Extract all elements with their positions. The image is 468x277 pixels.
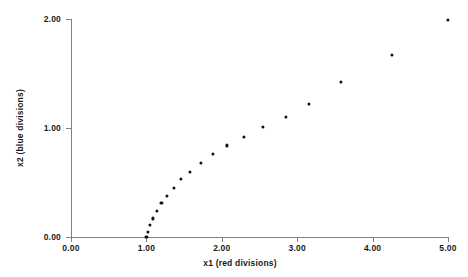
plot-area — [71, 19, 448, 237]
x-axis-line — [71, 237, 449, 238]
x-tick-label: 1.00 — [138, 243, 155, 253]
x-axis-title: x1 (red divisions) — [203, 258, 277, 268]
y-tick-mark — [66, 237, 71, 238]
x-tick-mark — [448, 237, 449, 242]
y-tick-label: 1.00 — [44, 123, 61, 133]
x-tick-label: 0.00 — [62, 243, 79, 253]
scatter-plot-figure: 0.001.002.003.004.005.00 0.001.002.00 x1… — [0, 0, 468, 277]
x-tick-label: 5.00 — [439, 243, 456, 253]
x-tick-mark — [373, 237, 374, 242]
data-point — [446, 18, 449, 21]
x-tick-mark — [222, 237, 223, 242]
data-point — [145, 235, 148, 238]
y-axis-title: x2 (blue divisions) — [15, 89, 25, 167]
x-tick-label: 2.00 — [213, 243, 230, 253]
y-tick-label: 0.00 — [44, 232, 61, 242]
y-tick-label: 2.00 — [44, 14, 61, 24]
x-tick-mark — [71, 237, 72, 242]
x-tick-label: 3.00 — [289, 243, 306, 253]
x-tick-mark — [297, 237, 298, 242]
x-tick-label: 4.00 — [364, 243, 381, 253]
